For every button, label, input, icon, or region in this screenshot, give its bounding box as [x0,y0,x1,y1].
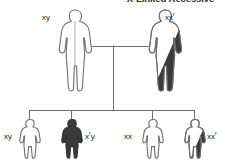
mother-genotype-label: xxr [165,14,175,22]
child-figure-3 [140,118,166,160]
child-genotype-label-4: xxr [207,133,217,141]
child-4-genotype-superscript: r [215,130,217,136]
child-genotype-label-2: xry [85,133,95,141]
child-3-genotype-base: xx [124,132,132,141]
mother-genotype-base: xx [165,13,173,22]
child-2-genotype-tail: y [91,132,95,141]
diagram-title: X-Linked Recessive [118,0,223,4]
child-genotype-label-3: xx [124,133,132,141]
child-figure-1 [17,118,43,160]
child-1-genotype-base: xy [4,132,12,141]
descent-line [113,46,114,110]
pedigree-diagram: X-Linked Recessive xy xxr [0,0,225,161]
sibship-line [29,110,195,111]
child-figure-2 [59,118,85,160]
father-genotype-base: xy [42,13,50,22]
child-4-genotype-base: xx [207,132,215,141]
father-genotype-label: xy [42,14,50,22]
child-figure-4 [182,118,208,160]
father-figure [52,8,98,92]
child-genotype-label-1: xy [4,133,12,141]
mother-genotype-superscript: r [173,11,175,17]
